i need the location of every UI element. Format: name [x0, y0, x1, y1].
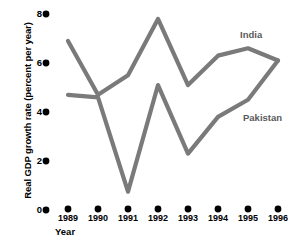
y-tick-dot-6	[43, 60, 50, 67]
y-tick-dot-8	[43, 11, 50, 18]
gdp-growth-line-chart: Real GDP growth rate (percent per year) …	[0, 0, 301, 243]
x-tick-dot-1989	[65, 206, 72, 213]
series-line-india	[68, 19, 278, 95]
x-tick-dot-1993	[185, 206, 192, 213]
y-tick-dot-4	[43, 109, 50, 116]
plot-area	[0, 0, 301, 243]
x-tick-dot-1990	[95, 206, 102, 213]
y-tick-dot-2	[43, 158, 50, 165]
x-axis-tick-dots	[65, 206, 282, 213]
y-axis-tick-dots	[43, 11, 50, 214]
x-tick-dot-1996	[275, 206, 282, 213]
series-line-pakistan	[68, 61, 278, 192]
x-tick-dot-1992	[155, 206, 162, 213]
x-tick-dot-1995	[245, 206, 252, 213]
y-tick-dot-0	[43, 207, 50, 214]
x-tick-dot-1994	[215, 206, 222, 213]
x-tick-dot-1991	[125, 206, 132, 213]
